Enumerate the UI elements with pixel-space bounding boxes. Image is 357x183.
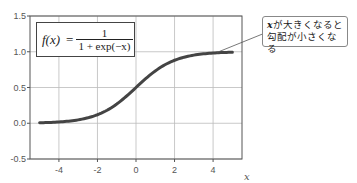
- y-tick-label: -0.5: [10, 154, 26, 164]
- gradient-callout: xが大きくなると 勾配が小さくなる: [262, 16, 348, 47]
- formula-lhs: f(x): [42, 32, 60, 48]
- formula-fraction: 1 1 + exp(−x): [76, 27, 132, 52]
- x-tick-label: -4: [55, 165, 63, 175]
- formula-equals: =: [66, 32, 73, 48]
- x-tick-label: 4: [211, 165, 216, 175]
- x-tick-label: 0: [133, 165, 138, 175]
- x-tick-label: -2: [93, 165, 101, 175]
- callout-line-1-text: が大きくなると: [273, 19, 343, 30]
- callout-leader-line: [217, 33, 265, 52]
- callout-line-2: 勾配が小さくなる: [267, 31, 343, 55]
- y-tick-label: 1.5: [13, 11, 26, 21]
- x-tick-label: 2: [172, 165, 177, 175]
- y-tick-label: 1.0: [13, 47, 26, 57]
- formula-denominator: 1 + exp(−x): [76, 39, 132, 52]
- formula-numerator: 1: [100, 27, 110, 39]
- x-axis-label: x: [244, 171, 250, 182]
- callout-line-1: xが大きくなると: [267, 19, 343, 31]
- y-axis-ticks: -0.50.00.51.01.5: [10, 11, 30, 164]
- formula-box: f(x) = 1 1 + exp(−x): [36, 22, 135, 57]
- y-tick-label: 0.5: [13, 83, 26, 93]
- y-tick-label: 0.0: [13, 118, 26, 128]
- x-axis-ticks: -4-2024: [55, 159, 216, 175]
